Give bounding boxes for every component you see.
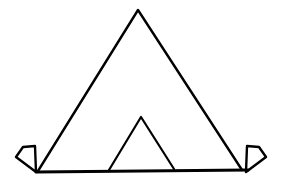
ground-line [36, 170, 248, 172]
tent-drawing: Tent line drawing [0, 0, 283, 186]
figure-background [0, 0, 283, 186]
figure-canvas: Tent line drawing [0, 0, 283, 186]
